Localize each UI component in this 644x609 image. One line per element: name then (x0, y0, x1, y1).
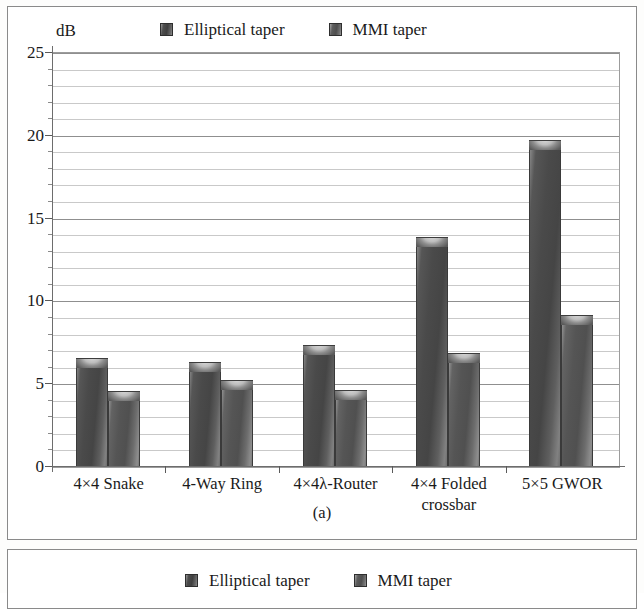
bar-body (76, 358, 108, 466)
y-tick-major (45, 52, 52, 53)
bar-elliptical (303, 345, 335, 466)
y-tick-label: 10 (2, 292, 44, 309)
bar-elliptical (529, 140, 561, 466)
y-tick-major (45, 135, 52, 136)
legend-entry-mmi-b: MMI taper (354, 572, 452, 589)
y-tick-label: 20 (2, 126, 44, 143)
bar-mmi (108, 391, 140, 466)
x-category-label-line: 5×5 GWOR (500, 474, 625, 495)
bar-body (448, 353, 480, 466)
bar-body (108, 391, 140, 466)
subfigure-caption: (a) (0, 503, 644, 523)
y-tick-minor (48, 334, 52, 335)
chart-legend: Elliptical taper MMI taper (160, 21, 427, 38)
legend-entry-elliptical: Elliptical taper (160, 21, 285, 38)
y-tick-label: 0 (2, 458, 44, 475)
x-category-label-line: 4-Way Ring (159, 474, 284, 495)
x-tick (279, 466, 280, 473)
bar-top-cap (416, 237, 448, 247)
y-tick-minor (48, 317, 52, 318)
bar-elliptical (416, 237, 448, 466)
x-tick (165, 466, 166, 473)
y-tick-major (45, 300, 52, 301)
x-axis-line (46, 466, 625, 467)
y-tick-major (45, 218, 52, 219)
y-tick-major (45, 466, 52, 467)
y-tick-minor (48, 449, 52, 450)
y-tick-minor (48, 350, 52, 351)
bar-body (529, 140, 561, 466)
bar-mmi (335, 390, 367, 466)
y-tick-minor (48, 69, 52, 70)
x-category-label: 4-Way Ring (159, 474, 284, 495)
x-category-label: 5×5 GWOR (500, 474, 625, 495)
bar-body (561, 315, 593, 466)
bar-top-cap (529, 140, 561, 150)
x-category-label: 4×4λ-Router (273, 474, 398, 495)
y-tick-major (45, 383, 52, 384)
bar-top-cap (221, 380, 253, 390)
legend-swatch-elliptical-icon (160, 23, 173, 36)
legend-label-elliptical: Elliptical taper (184, 21, 285, 38)
legend-label-mmi: MMI taper (353, 21, 427, 38)
y-tick-minor (48, 118, 52, 119)
y-tick-minor (48, 102, 52, 103)
y-tick-minor (48, 367, 52, 368)
bar-elliptical (189, 362, 221, 466)
x-category-label-line: 4×4 Folded (386, 474, 511, 495)
bar-top-cap (448, 353, 480, 363)
bar-top-cap (189, 362, 221, 372)
bar-body (335, 390, 367, 466)
bar-top-cap (108, 391, 140, 401)
chart-legend-panel-b: Elliptical taper MMI taper (185, 572, 452, 589)
bar-mmi (561, 315, 593, 466)
x-tick (392, 466, 393, 473)
bar-elliptical (76, 358, 108, 466)
bar-mmi (221, 380, 253, 466)
y-tick-minor (48, 267, 52, 268)
bar-top-cap (76, 358, 108, 368)
y-tick-label: 5 (2, 375, 44, 392)
x-category-label-line: 4×4 Snake (46, 474, 171, 495)
y-tick-minor (48, 184, 52, 185)
bar-top-cap (303, 345, 335, 355)
bar-series-layer (52, 52, 619, 466)
y-tick-minor (48, 251, 52, 252)
x-category-label: 4×4 Snake (46, 474, 171, 495)
y-tick-label: 15 (2, 209, 44, 226)
y-tick-minor (48, 85, 52, 86)
legend-entry-elliptical-b: Elliptical taper (185, 572, 310, 589)
y-tick-minor (48, 433, 52, 434)
y-tick-minor (48, 400, 52, 401)
legend-entry-mmi: MMI taper (329, 21, 427, 38)
legend-swatch-elliptical-icon-b (185, 574, 198, 587)
y-tick-minor (48, 151, 52, 152)
y-tick-minor (48, 416, 52, 417)
x-tick (506, 466, 507, 473)
y-tick-minor (48, 201, 52, 202)
legend-label-mmi-b: MMI taper (378, 572, 452, 589)
bar-top-cap (561, 315, 593, 325)
y-tick-minor (48, 284, 52, 285)
bar-top-cap (335, 390, 367, 400)
bar-body (221, 380, 253, 466)
bar-mmi (448, 353, 480, 466)
legend-swatch-mmi-icon-b (354, 574, 367, 587)
legend-label-elliptical-b: Elliptical taper (209, 572, 310, 589)
y-tick-label: 25 (2, 44, 44, 61)
y-tick-minor (48, 234, 52, 235)
bar-body (303, 345, 335, 466)
bar-body (416, 237, 448, 466)
y-tick-minor (48, 168, 52, 169)
x-category-label-line: 4×4λ-Router (273, 474, 398, 495)
y-axis-unit-label: dB (56, 22, 76, 39)
legend-swatch-mmi-icon (329, 23, 342, 36)
bar-body (189, 362, 221, 466)
